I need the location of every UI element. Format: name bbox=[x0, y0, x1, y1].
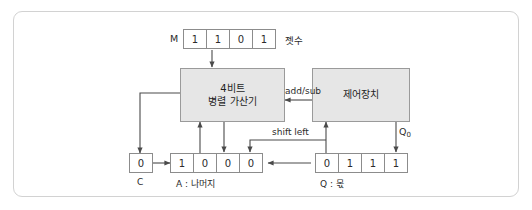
control-unit-block[interactable]: 제어장치 bbox=[312, 68, 410, 122]
q-register-annotation: Q : 몫 bbox=[320, 177, 344, 190]
q0-signal-label: Q0 bbox=[399, 126, 411, 137]
m-bit-0[interactable]: 1 bbox=[183, 29, 207, 49]
a-register[interactable]: 1 0 0 0 bbox=[170, 153, 263, 173]
arrow-shift-left bbox=[250, 140, 326, 152]
m-bit-2[interactable]: 0 bbox=[229, 29, 253, 49]
c-register-annotation: C bbox=[137, 177, 143, 187]
a-bit-2[interactable]: 0 bbox=[216, 153, 240, 173]
parallel-adder-block[interactable]: 4비트 병렬 가산기 bbox=[180, 68, 285, 122]
m-bit-1[interactable]: 1 bbox=[206, 29, 230, 49]
adder-label-line1: 4비트 bbox=[220, 82, 244, 96]
q-register[interactable]: 0 1 1 1 bbox=[315, 153, 408, 173]
q0-signal-subscript: 0 bbox=[406, 131, 410, 139]
a-register-annotation: A : 나머지 bbox=[176, 177, 215, 190]
q-bit-2[interactable]: 1 bbox=[361, 153, 385, 173]
arrow-adder-to-c bbox=[140, 93, 180, 153]
m-register-label: M bbox=[170, 33, 178, 44]
control-label-line1: 제어장치 bbox=[343, 88, 379, 102]
q-bit-1[interactable]: 1 bbox=[338, 153, 362, 173]
add-sub-signal-label: add/sub bbox=[285, 86, 321, 96]
m-register-annotation: 젯수 bbox=[285, 33, 303, 47]
a-bit-1[interactable]: 0 bbox=[193, 153, 217, 173]
a-bit-3[interactable]: 0 bbox=[239, 153, 263, 173]
m-register[interactable]: 1 1 0 1 bbox=[183, 29, 276, 49]
adder-label-line2: 병렬 가산기 bbox=[208, 95, 256, 109]
c-register[interactable]: 0 bbox=[129, 153, 153, 173]
q-bit-0[interactable]: 0 bbox=[315, 153, 339, 173]
a-bit-0[interactable]: 1 bbox=[170, 153, 194, 173]
shift-left-signal-label: shift left bbox=[272, 127, 309, 137]
m-bit-3[interactable]: 1 bbox=[252, 29, 276, 49]
q-bit-3[interactable]: 1 bbox=[384, 153, 408, 173]
